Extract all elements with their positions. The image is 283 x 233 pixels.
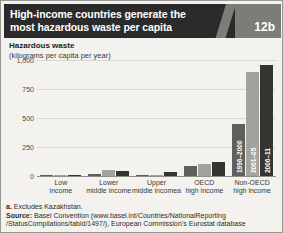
figure-number-label: 12b xyxy=(254,20,275,34)
figure-title: High-income countries generate the most … xyxy=(4,4,235,38)
source-text-1: Basel Convention (www.basel.int/Countrie… xyxy=(34,212,226,219)
bar[interactable] xyxy=(150,175,163,176)
y-tick-label-250: 250 xyxy=(4,144,34,151)
bar[interactable] xyxy=(54,175,67,176)
bar[interactable]: 2006–11 xyxy=(260,65,273,176)
bar[interactable] xyxy=(68,175,81,176)
y-tick-label-500: 500 xyxy=(4,115,34,122)
x-axis-labels: LowincomeLowermiddle incomeUppermiddle i… xyxy=(37,179,276,199)
bar-group xyxy=(40,60,81,176)
chart-axis-title: Hazardous waste xyxy=(9,41,74,50)
figure-title-line-1: High-income countries generate the xyxy=(10,8,229,21)
source-line-1: Source: Basel Convention (www.basel.int/… xyxy=(6,212,280,221)
figure-footnotes: a. Excludes Kazakhstan. Source: Basel Co… xyxy=(6,203,280,229)
footnote-a: a. Excludes Kazakhstan. xyxy=(6,203,280,212)
bar-group xyxy=(136,60,177,176)
footnote-marker: a. xyxy=(6,203,12,210)
figure-title-bar: High-income countries generate the most … xyxy=(4,4,281,38)
bar-legend-label: 2001–05 xyxy=(250,148,257,173)
x-axis-label-line: high income xyxy=(224,187,280,195)
bar[interactable] xyxy=(116,171,129,176)
bar[interactable] xyxy=(198,164,211,176)
figure-number-badge: 12b xyxy=(235,4,281,38)
figure-card: High-income countries generate the most … xyxy=(0,0,283,233)
y-tick-label-0: 0 xyxy=(4,173,34,180)
bar-group xyxy=(88,60,129,176)
y-tick-label-1000: 1,000 xyxy=(4,57,34,64)
bar[interactable] xyxy=(164,172,177,176)
bar-series-layer: 1996–20002001–052006–11 xyxy=(37,60,276,176)
bar-legend-label: 1996–2000 xyxy=(236,140,243,173)
x-axis-label: Non-OECDhigh income xyxy=(224,179,280,195)
bar[interactable] xyxy=(184,166,197,176)
bar[interactable] xyxy=(212,162,225,176)
bar[interactable] xyxy=(102,170,115,176)
y-tick-label-750: 750 xyxy=(4,86,34,93)
figure-title-line-2: most hazardous waste per capita xyxy=(10,21,229,34)
gridline-0 xyxy=(37,176,276,177)
bar[interactable] xyxy=(88,174,101,176)
bar[interactable] xyxy=(136,175,149,176)
bar-group xyxy=(184,60,225,176)
plot-area: 02505007501,000 1996–20002001–052006–11 xyxy=(4,60,281,179)
chart: Hazardous waste (kilograms per capita pe… xyxy=(4,40,281,200)
bar[interactable]: 1996–2000 xyxy=(232,124,245,176)
bar[interactable] xyxy=(40,175,53,176)
bar-group: 1996–20002001–052006–11 xyxy=(232,60,273,176)
source-line-2: /StatusCompilations/tabid/1497/), Europe… xyxy=(6,220,280,229)
bar[interactable]: 2001–05 xyxy=(246,72,259,176)
x-axis-label-line: Non-OECD xyxy=(224,179,280,187)
source-label: Source: xyxy=(6,212,32,219)
footnote-text: Excludes Kazakhstan. xyxy=(14,203,83,210)
bar-legend-label: 2006–11 xyxy=(264,148,271,173)
